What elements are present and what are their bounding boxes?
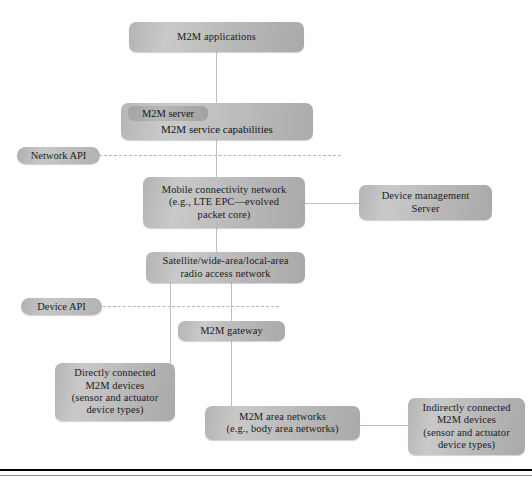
node-radio-access-line1: Satellite/wide-area/local-area [162,255,288,266]
node-direct-devices-line4: device types) [87,404,144,415]
node-mobile-core-line2: (e.g., LTE EPC—evolved [169,196,279,207]
node-m2m-gateway-label: M2M gateway [183,325,280,337]
connector-area-networks-to-indirect-devices [360,425,408,426]
node-m2m-server-group[interactable]: M2M server M2M service capabilities [121,103,313,140]
node-indirect-devices-line3: (sensor and actuator [423,427,510,438]
node-area-networks-line2: (e.g., body area networks) [226,423,338,434]
label-device-api[interactable]: Device API [21,298,102,315]
node-device-management-server[interactable]: Device management Server [359,185,492,220]
node-m2m-applications[interactable]: M2M applications [129,22,304,52]
node-device-mgmt-line2: Server [411,203,439,214]
footer-rule-thin [0,475,532,476]
device-api-dashed-line [103,306,279,307]
node-indirect-devices-line4: device types) [438,439,495,450]
node-m2m-applications-label: M2M applications [134,31,299,43]
node-directly-connected-devices[interactable]: Directly connected M2M devices (sensor a… [55,363,175,421]
connector-server-to-core [216,140,217,177]
network-api-dashed-line [99,155,341,156]
label-network-api[interactable]: Network API [17,147,100,164]
label-network-api-text: Network API [31,150,87,161]
node-mobile-core-line3: packet core) [198,209,251,220]
node-direct-devices-line2: M2M devices [85,380,144,391]
connector-core-to-device-mgmt [305,203,360,204]
node-m2m-service-capabilities-label: M2M service capabilities [121,123,313,135]
footer-rule-thick [0,469,532,471]
node-area-networks-line1: M2M area networks [239,411,326,422]
node-mobile-connectivity-network[interactable]: Mobile connectivity network (e.g., LTE E… [143,177,305,228]
node-m2m-gateway[interactable]: M2M gateway [178,321,285,341]
node-m2m-server-title: M2M server [128,106,208,121]
node-radio-access-network[interactable]: Satellite/wide-area/local-area radio acc… [146,252,305,283]
connector-gateway-to-area-networks [231,341,232,406]
connector-radio-to-direct-devices [170,283,171,363]
node-indirectly-connected-devices[interactable]: Indirectly connected M2M devices (sensor… [408,398,525,455]
node-radio-access-line2: radio access network [180,268,270,279]
node-mobile-core-line1: Mobile connectivity network [162,184,287,195]
node-indirect-devices-line2: M2M devices [437,414,496,425]
label-device-api-text: Device API [37,301,86,312]
connector-core-to-radio [216,228,217,252]
connector-radio-to-gateway [231,283,232,321]
connector-applications-to-server [216,50,217,103]
node-m2m-area-networks[interactable]: M2M area networks (e.g., body area netwo… [205,406,360,440]
node-device-mgmt-line1: Device management [382,190,470,201]
diagram-canvas: M2M applications M2M server M2M service … [0,0,532,484]
node-direct-devices-line3: (sensor and actuator [72,392,159,403]
node-indirect-devices-line1: Indirectly connected [423,402,511,413]
node-direct-devices-line1: Directly connected [74,367,155,378]
